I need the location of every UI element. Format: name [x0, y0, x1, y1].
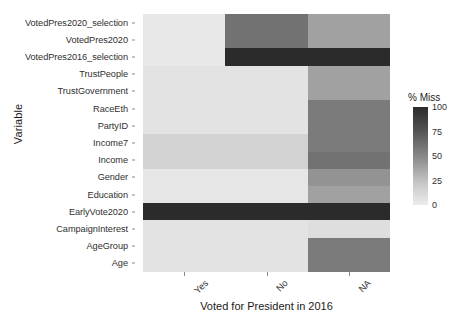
heatmap-cell [225, 203, 307, 221]
heatmap-row [143, 117, 390, 135]
heatmap-cell [143, 117, 225, 135]
legend-tick-label: 75 [432, 127, 442, 137]
heatmap-cell [225, 117, 307, 135]
y-axis-tick-label: Income [0, 155, 128, 165]
heatmap-row [143, 31, 390, 49]
y-axis-tick-label: VotedPres2020 [0, 35, 128, 45]
heatmap-row [143, 14, 390, 32]
y-axis-tick-mark [132, 22, 135, 23]
heatmap-cell [225, 83, 307, 101]
heatmap-cell [308, 169, 390, 187]
heatmap-cell [143, 152, 225, 170]
heatmap-row [143, 169, 390, 187]
y-axis-tick-label: RaceEth [0, 104, 128, 114]
heatmap-cell [143, 100, 225, 118]
heatmap-cell [143, 134, 225, 152]
y-axis-tick-mark [132, 246, 135, 247]
y-axis-tick-mark [132, 229, 135, 230]
y-axis-tick-label: VotedPres2020_selection [0, 18, 128, 28]
heatmap-cell [143, 83, 225, 101]
heatmap-row [143, 255, 390, 272]
heatmap-cell [225, 48, 307, 66]
heatmap-cell [308, 203, 390, 221]
y-axis-tick-label: AgeGroup [0, 241, 128, 251]
heatmap-cell [225, 169, 307, 187]
heatmap-row [143, 152, 390, 170]
y-axis-tick-label: VotedPres2016_selection [0, 52, 128, 62]
heatmap-cell [143, 238, 225, 256]
heatmap-cell [225, 31, 307, 49]
heatmap-cell [143, 169, 225, 187]
heatmap-cell [225, 100, 307, 118]
heatmap-cell [308, 48, 390, 66]
heatmap-cell [143, 66, 225, 84]
heatmap-cell [308, 220, 390, 238]
x-axis-tick-mark [349, 272, 350, 276]
x-axis-tick-label: Yes [193, 278, 211, 296]
heatmap-row [143, 66, 390, 84]
y-axis-tick-mark [132, 74, 135, 75]
heatmap-cell [225, 220, 307, 238]
heatmap-row [143, 83, 390, 101]
heatmap-panel [143, 14, 390, 272]
y-axis-tick-mark [132, 143, 135, 144]
y-axis-tick-mark [132, 194, 135, 195]
heatmap-cell [308, 14, 390, 32]
y-axis-tick-label: Education [0, 190, 128, 200]
y-axis-tick-mark [132, 125, 135, 126]
y-axis-tick-label: TrustPeople [0, 69, 128, 79]
heatmap-cell [225, 152, 307, 170]
x-axis-ticks [143, 272, 390, 276]
heatmap-cell [225, 66, 307, 84]
heatmap-cell [225, 255, 307, 272]
heatmap-cell [143, 48, 225, 66]
y-axis-tick-mark [132, 57, 135, 58]
x-axis-title: Voted for President in 2016 [143, 300, 390, 312]
heatmap-cell [225, 186, 307, 204]
heatmap-cell [308, 255, 390, 272]
legend-tick-label: 50 [432, 151, 442, 161]
y-axis-tick-mark [132, 263, 135, 264]
y-axis-tick-mark [132, 91, 135, 92]
y-axis-tick-mark [132, 160, 135, 161]
heatmap-row [143, 48, 390, 66]
y-axis-tick-mark [132, 177, 135, 178]
heatmap-cell [143, 220, 225, 238]
y-axis-tick-label: Gender [0, 172, 128, 182]
x-axis-tick-mark [267, 272, 268, 276]
heatmap-row [143, 186, 390, 204]
heatmap-row [143, 203, 390, 221]
heatmap-cell [308, 100, 390, 118]
y-axis-tick-label: EarlyVote2020 [0, 207, 128, 217]
heatmap-cell [143, 203, 225, 221]
heatmap-cell [225, 238, 307, 256]
heatmap-cell [143, 14, 225, 32]
heatmap-cell [225, 14, 307, 32]
y-axis-tick-label: CampaignInterest [0, 224, 128, 234]
legend-tick-label: 25 [432, 176, 442, 186]
x-axis-tick-mark [184, 272, 185, 276]
y-axis-tick-mark [132, 39, 135, 40]
x-axis-tick-label: No [274, 278, 289, 293]
y-axis-tick-mark [132, 108, 135, 109]
heatmap-cell [308, 117, 390, 135]
y-axis-tick-label: PartyID [0, 121, 128, 131]
legend-tick-labels: 1007550250 [432, 107, 468, 205]
legend-colorbar [413, 107, 428, 205]
legend-tick-label: 100 [432, 102, 447, 112]
heatmap-cell [308, 134, 390, 152]
legend-tick-label: 0 [432, 200, 437, 210]
heatmap-cell [308, 238, 390, 256]
y-axis-tick-label: Income7 [0, 138, 128, 148]
heatmap-cell [308, 186, 390, 204]
y-axis-tick-label: Age [0, 258, 128, 268]
heatmap-row [143, 100, 390, 118]
heatmap-chart: Variable VotedPres2020_selectionVotedPre… [0, 0, 474, 321]
heatmap-row [143, 134, 390, 152]
heatmap-cell [308, 31, 390, 49]
heatmap-cell [143, 255, 225, 272]
x-axis-tick-label: NA [357, 278, 373, 294]
heatmap-cell [308, 83, 390, 101]
y-axis-tick-labels: VotedPres2020_selectionVotedPres2020Vote… [0, 14, 136, 272]
heatmap-cell [308, 152, 390, 170]
